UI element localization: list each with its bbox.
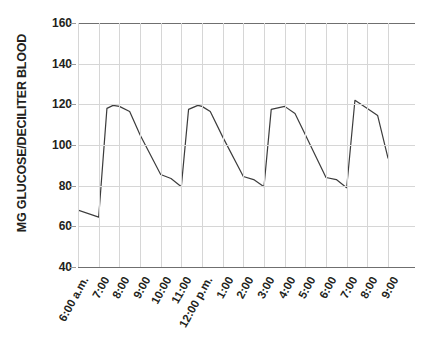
plot-area [78, 23, 415, 267]
x-gridline [388, 23, 389, 267]
y-tick-label: 60 [32, 219, 72, 233]
y-tick-mark [70, 267, 76, 268]
x-gridline [140, 23, 141, 267]
x-gridline [367, 23, 368, 267]
x-gridline [243, 23, 244, 267]
y-gridline [78, 104, 415, 105]
y-tick-mark [70, 64, 76, 65]
x-tick-label-text: 6:00 a.m. [56, 271, 92, 323]
x-gridline [202, 23, 203, 267]
y-tick-label: 140 [32, 57, 72, 71]
glucose-series-polyline [78, 100, 388, 217]
x-gridline [326, 23, 327, 267]
y-tick-mark [70, 145, 76, 146]
y-gridline [78, 145, 415, 146]
y-tick-label: 80 [32, 179, 72, 193]
x-gridline [305, 23, 306, 267]
x-gridline [99, 23, 100, 267]
x-gridline [161, 23, 162, 267]
y-tick-mark [70, 186, 76, 187]
x-gridline [264, 23, 265, 267]
y-tick-mark [70, 104, 76, 105]
y-tick-label: 100 [32, 138, 72, 152]
x-gridline [285, 23, 286, 267]
x-gridline [181, 23, 182, 267]
y-tick-mark [70, 226, 76, 227]
y-gridline [78, 64, 415, 65]
y-gridline [78, 186, 415, 187]
x-gridline [119, 23, 120, 267]
y-gridline [78, 226, 415, 227]
x-gridline [78, 23, 79, 267]
y-tick-label: 120 [32, 97, 72, 111]
y-tick-label: 160 [32, 16, 72, 30]
x-gridline [347, 23, 348, 267]
y-axis-ticks: 160140120100806040 [26, 23, 72, 267]
x-tick-label-text: 3:00 [255, 271, 279, 300]
x-tick-label-text: 9:00 [379, 271, 403, 300]
y-tick-label: 40 [32, 260, 72, 274]
y-gridline [78, 23, 415, 24]
x-gridline [223, 23, 224, 267]
x-axis-ticks: 6:00 a.m.7:008:009:0010:0011:0012:00 p.m… [78, 267, 415, 347]
y-tick-mark [70, 23, 76, 24]
glucose-line-chart: MG GLUCOSE/DECILITER BLOOD 1601401201008… [0, 0, 437, 347]
x-tick-label-text: 6:00 [317, 271, 341, 300]
